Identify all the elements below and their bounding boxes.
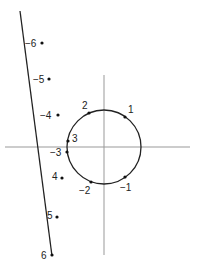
line-point-dot bbox=[56, 113, 59, 116]
circle-point-label: 1 bbox=[128, 104, 134, 115]
line-point-dot bbox=[47, 77, 50, 80]
line-point-label: −4 bbox=[40, 110, 52, 121]
diagram-canvas: 123−1−2−6−5−4−3456 bbox=[0, 0, 197, 270]
line-point-dot bbox=[65, 150, 68, 153]
line-point-label: −5 bbox=[33, 74, 45, 85]
line-point-label: 6 bbox=[41, 250, 47, 261]
line-point-dot bbox=[60, 176, 63, 179]
circle-point-dot bbox=[66, 139, 69, 142]
circle-point-label: 2 bbox=[82, 100, 88, 111]
circle-point-dot bbox=[123, 175, 126, 178]
circle-point-label: 3 bbox=[72, 133, 78, 144]
circle-point-dot bbox=[89, 180, 92, 183]
circle-point-dot bbox=[87, 111, 90, 114]
labeled-points: 123−1−2−6−5−4−3456 bbox=[25, 38, 134, 261]
line-point-label: −6 bbox=[25, 38, 37, 49]
line-point-dot bbox=[50, 253, 53, 256]
line-point-dot bbox=[40, 41, 43, 44]
line-point-label: 5 bbox=[47, 210, 53, 221]
line-point-label: −3 bbox=[50, 147, 62, 158]
line-point-label: 4 bbox=[52, 171, 58, 182]
circle-point-label: −1 bbox=[120, 182, 132, 193]
circle-point-label: −2 bbox=[79, 185, 91, 196]
line-point-dot bbox=[55, 215, 58, 218]
circle-point-dot bbox=[123, 115, 126, 118]
